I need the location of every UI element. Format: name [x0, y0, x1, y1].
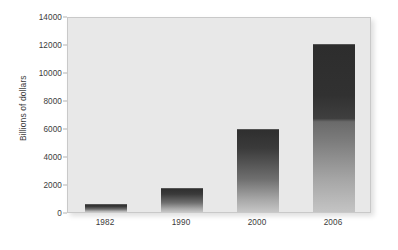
bar-1982 [85, 204, 127, 212]
y-tick-label: 12000 [39, 41, 62, 50]
y-tick-label: 10000 [39, 69, 62, 78]
x-tick-label: 2000 [248, 218, 267, 227]
y-tick-label: 0 [57, 209, 62, 218]
x-tick-label: 2006 [324, 218, 343, 227]
bar-chart-figure: Billions of dollars 02000400060008000100… [0, 0, 398, 250]
y-tick-label: 2000 [43, 181, 62, 190]
y-axis-tick-labels: 02000400060008000100001200014000 [30, 17, 62, 213]
y-tick-label: 6000 [43, 125, 62, 134]
plot-area [67, 17, 371, 213]
bars-container [68, 18, 370, 212]
x-axis-tick-labels: 1982199020002006 [67, 218, 371, 234]
bar-2006 [313, 44, 355, 212]
x-tick-label: 1990 [172, 218, 191, 227]
y-tick-label: 4000 [43, 153, 62, 162]
bar-2000 [237, 129, 279, 212]
y-tick-label: 8000 [43, 97, 62, 106]
x-tick-label: 1982 [96, 218, 115, 227]
y-tick-label: 14000 [39, 13, 62, 22]
y-axis-title: Billions of dollars [16, 0, 30, 216]
bar-1990 [161, 188, 203, 213]
